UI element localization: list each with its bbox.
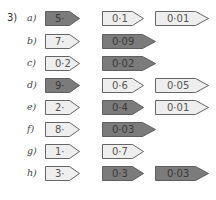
tag-value: 9·	[55, 79, 65, 93]
arrow-tag-dark: 0·4	[102, 100, 143, 116]
tag-value: 0·3	[112, 167, 128, 181]
arrow-tag-light: 0·6	[102, 78, 143, 94]
tag-value: 0·01	[167, 12, 189, 26]
row-letter: b)	[27, 35, 37, 46]
row-letter: g)	[27, 145, 37, 156]
arrow-tag-dark: 0·03	[155, 166, 208, 182]
tag-value: 0·09	[112, 35, 134, 49]
tag-value: 0·02	[112, 57, 134, 71]
row-f: f)8·0·03	[0, 122, 216, 138]
tag-value: 5·	[55, 12, 65, 26]
row-g: g)1·0·7	[0, 144, 216, 160]
row-letter: c)	[27, 57, 36, 68]
arrow-tag-light: 1·	[45, 144, 79, 160]
arrow-tag-dark: 0·02	[102, 56, 155, 72]
row-h: h)3·0·30·03	[0, 166, 216, 182]
arrow-tag-dark: 5·	[45, 11, 79, 27]
row-a: a)5·0·10·01	[0, 11, 216, 27]
row-letter: e)	[27, 101, 36, 112]
arrow-tag-light: 0·7	[102, 144, 143, 160]
row-b: b)7·0·09	[0, 34, 216, 50]
tag-value: 7·	[55, 35, 65, 49]
tag-value: 2·	[55, 101, 65, 115]
arrow-tag-dark: 9·	[45, 78, 79, 94]
tag-value: 3·	[55, 167, 65, 181]
row-letter: a)	[27, 12, 36, 23]
tag-value: 0·4	[112, 101, 128, 115]
arrow-tag-light: 7·	[45, 34, 79, 50]
arrow-tag-light: 0·1	[102, 11, 143, 27]
tag-value: 0·1	[112, 12, 128, 26]
tag-value: 0·03	[112, 123, 134, 137]
arrow-tag-light: 0·01	[155, 11, 208, 27]
arrow-tag-light: 0·2	[45, 56, 79, 72]
tag-value: 8·	[55, 123, 65, 137]
row-d: d)9·0·60·05	[0, 78, 216, 94]
row-letter: h)	[27, 167, 37, 178]
arrow-tag-light: 0·01	[155, 100, 208, 116]
arrow-tag-dark: 0·03	[102, 122, 155, 138]
row-letter: d)	[27, 79, 37, 90]
tag-value: 0·01	[167, 101, 189, 115]
row-letter: f)	[27, 123, 34, 134]
tag-value: 1·	[55, 145, 65, 159]
arrow-tag-light: 3·	[45, 166, 79, 182]
tag-value: 0·05	[167, 79, 189, 93]
arrow-tag-dark: 0·09	[102, 34, 155, 50]
arrow-tag-light: 0·05	[155, 78, 208, 94]
arrow-tag-light: 2·	[45, 100, 79, 116]
tag-value: 0·6	[112, 79, 128, 93]
arrow-tag-dark: 0·3	[102, 166, 143, 182]
tag-value: 0·2	[55, 57, 71, 71]
row-e: e)2·0·40·01	[0, 100, 216, 116]
tag-value: 0·03	[167, 167, 189, 181]
arrow-tag-light: 8·	[45, 122, 79, 138]
row-c: c)0·20·02	[0, 56, 216, 72]
tag-value: 0·7	[112, 145, 128, 159]
